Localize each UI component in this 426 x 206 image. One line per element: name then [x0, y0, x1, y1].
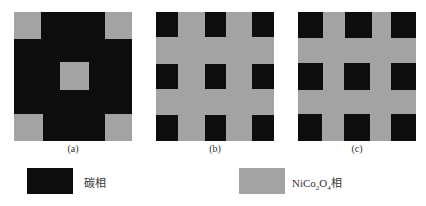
legend-carbon-swatch — [27, 168, 73, 194]
panel-b-cell — [205, 64, 226, 89]
panel-a-corner-tl — [14, 12, 41, 39]
legend-nico2o4-swatch — [239, 168, 285, 194]
caption-b: (b) — [156, 143, 274, 154]
panel-b-cell — [252, 115, 274, 141]
panel-b-cell — [252, 12, 274, 37]
panel-c-cell — [344, 63, 370, 90]
panel-c — [298, 12, 416, 141]
panel-b-cell — [156, 12, 178, 37]
panel-c-cell — [344, 114, 370, 141]
panel-c-cell — [345, 12, 372, 38]
panel-a-corner-tr — [105, 12, 132, 39]
panel-a-center — [60, 62, 89, 90]
panel-a-corner-br — [105, 114, 132, 141]
panel-b — [156, 12, 274, 141]
panel-c-cell — [298, 12, 323, 38]
panel-c-cell — [298, 63, 323, 90]
legend-carbon-label: 碳相 — [84, 174, 106, 190]
panel-b-cell — [156, 115, 178, 141]
panel-b-cell — [205, 115, 226, 141]
panel-a-corner-bl — [14, 114, 43, 141]
panel-b-cell — [205, 12, 226, 37]
panel-c-cell — [391, 63, 416, 90]
legend-nico2o4-label: NiCo2O4相 — [292, 174, 342, 192]
caption-a: (a) — [14, 143, 132, 154]
panel-b-cell — [252, 64, 274, 89]
panel-c-cell — [391, 12, 416, 38]
caption-c: (c) — [298, 143, 416, 154]
panel-c-cell — [391, 114, 416, 141]
panel-a — [14, 12, 132, 141]
panel-c-cell — [298, 114, 322, 141]
panel-b-cell — [156, 64, 178, 89]
